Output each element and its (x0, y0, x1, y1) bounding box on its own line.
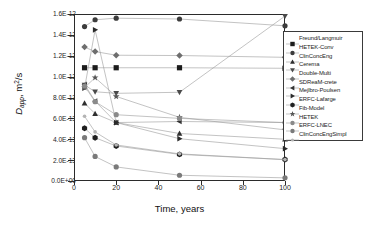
y-axis-title: Dapp, m2/s (13, 39, 25, 149)
series-fib-model (81, 74, 288, 133)
legend-marker-icon (286, 113, 299, 121)
legend-marker-icon (286, 95, 299, 103)
legend-marker-icon (286, 86, 299, 94)
legend-label: ClinConcEngSimpl (299, 130, 347, 138)
legend-item-double-multi[interactable]: Double-Multi (286, 69, 360, 78)
x-tick-mark (74, 181, 75, 185)
legend-item-clinconcengsimpl[interactable]: ClinConcEngSimpl (286, 130, 360, 139)
series-mejlbro-poulsen (82, 27, 288, 151)
legend-item-erfc-lnec[interactable]: ERFC-LNEC (286, 121, 360, 130)
legend-marker-icon (286, 43, 299, 51)
legend-item-clinconceng[interactable]: ClinConcEng (286, 51, 360, 60)
series-freund-langmuir (82, 65, 288, 71)
legend-label: ClinConcEng (299, 52, 332, 60)
x-tick-label: 80 (228, 184, 258, 192)
legend-item-fib-model[interactable]: Fib-Model (286, 104, 360, 113)
legend-marker-icon (286, 60, 299, 68)
x-tick-label: 60 (186, 184, 216, 192)
legend-item-freund-langmuir[interactable]: Freund/Langmuir (286, 34, 360, 43)
legend-item-hetek-conv[interactable]: HETEK-Conv (286, 43, 360, 52)
legend-marker-icon (286, 104, 299, 112)
series-hetek-conv (82, 16, 288, 30)
legend: Freund/LangmuirHETEK-ConvClinConcEngCere… (283, 31, 363, 141)
legend-label: Cerema (299, 60, 319, 68)
x-tick-mark (201, 181, 202, 185)
data-series-layer (74, 14, 285, 181)
legend-marker-icon (286, 130, 299, 138)
legend-label: SDReaM-crete (299, 78, 337, 86)
legend-marker-icon (286, 34, 299, 42)
chart-container: 0.0E+002.0E-134.0E-136.0E-138.0E-131.0E-… (0, 0, 365, 231)
x-tick-mark (116, 181, 117, 185)
legend-label: ERFC-Lafarge (299, 95, 336, 103)
x-tick-label: 40 (143, 184, 173, 192)
legend-item-sdream-crete[interactable]: SDReaM-crete (286, 77, 360, 86)
legend-item-hetek[interactable]: HETEK (286, 112, 360, 121)
legend-label: HETEK-Conv (299, 43, 333, 51)
legend-marker-icon (286, 121, 299, 129)
x-tick-label: 0 (59, 184, 89, 192)
legend-label: ERFC-LNEC (299, 121, 332, 129)
legend-marker-icon (286, 69, 299, 77)
legend-label: Fib-Model (299, 104, 324, 112)
x-tick-mark (285, 181, 286, 185)
series-cerema (82, 14, 288, 96)
legend-item-cerema[interactable]: Cerema (286, 60, 360, 69)
series-erfc-lafarge (82, 125, 288, 162)
legend-label: Mejlbro-Poulsen (299, 86, 340, 94)
legend-item-erfc-lafarge[interactable]: ERFC-Lafarge (286, 95, 360, 104)
legend-label: Double-Multi (299, 69, 331, 77)
x-axis-title: Time, years (74, 203, 285, 214)
legend-label: HETEK (299, 113, 318, 121)
series-double-multi (81, 44, 288, 61)
legend-marker-icon (286, 78, 299, 86)
legend-item-mejlbro-poulsen[interactable]: Mejlbro-Poulsen (286, 86, 360, 95)
legend-marker-icon (286, 52, 299, 60)
x-tick-mark (158, 181, 159, 185)
x-tick-label: 20 (101, 184, 131, 192)
x-tick-label: 100 (270, 184, 300, 192)
legend-label: Freund/Langmuir (299, 34, 342, 42)
x-tick-mark (243, 181, 244, 185)
